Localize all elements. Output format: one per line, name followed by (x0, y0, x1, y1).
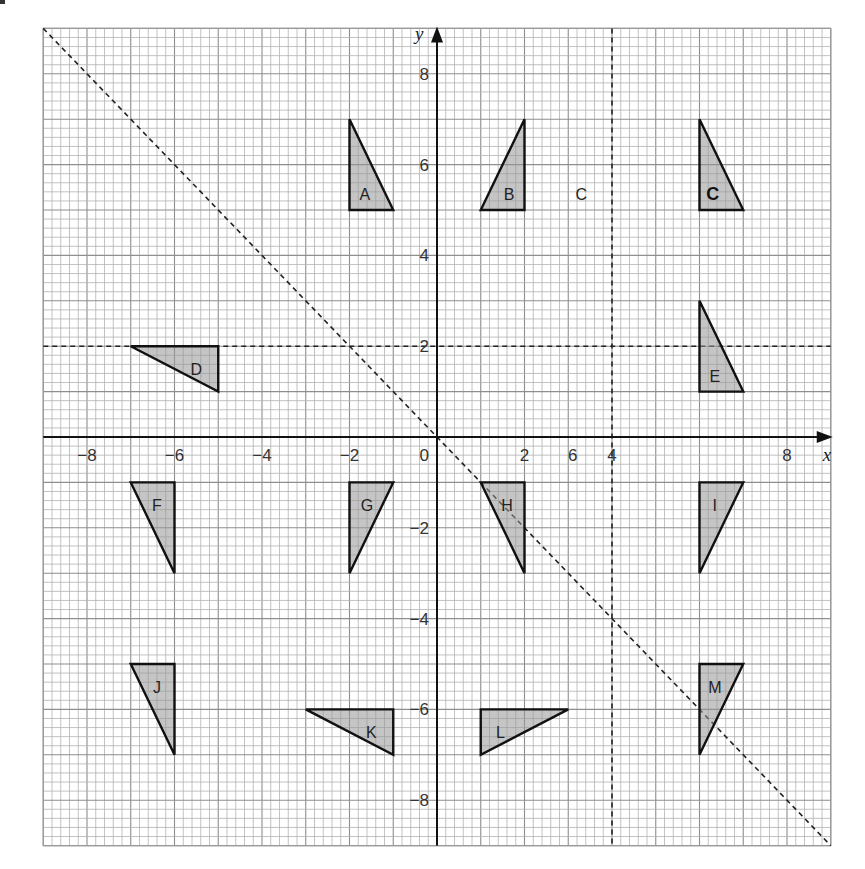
triangle-label-m: M (708, 679, 721, 696)
x-tick-label: −4 (252, 446, 271, 465)
triangle-label-d: D (191, 361, 203, 378)
triangle-label-e: E (709, 368, 720, 385)
y-tick-label: 8 (420, 65, 429, 84)
x-tick-label: −6 (165, 446, 184, 465)
triangle-label-i: I (713, 497, 717, 514)
coordinate-grid-figure: x y −8−6−4−2026488642−2−4−6−8 ABCDEFGHIJ… (0, 0, 865, 869)
triangle-label-j: J (153, 679, 161, 696)
triangle-label-l: L (496, 724, 505, 741)
x-tick-label: 2 (520, 446, 529, 465)
triangle-label-g: G (361, 497, 373, 514)
y-tick-label: 6 (420, 156, 429, 175)
x-tick-label: 4 (607, 446, 616, 465)
y-tick-label: 2 (420, 337, 429, 356)
x-tick-label: −8 (77, 446, 96, 465)
triangle-label-b: B (504, 186, 515, 203)
x-axis-name: x (822, 444, 832, 465)
y-tick-label: −4 (410, 610, 429, 629)
x-tick-label: 6 (568, 446, 577, 465)
x-tick-label: 0 (420, 446, 429, 465)
triangle-label-f: F (152, 497, 162, 514)
y-axis-name: y (413, 23, 424, 44)
free-label-c: C (576, 186, 588, 203)
triangle-label-g-top: C (706, 184, 719, 204)
triangle-label-h: H (501, 497, 513, 514)
triangle-label-a: A (359, 186, 370, 203)
y-tick-label: −6 (410, 700, 429, 719)
y-tick-label: −2 (410, 519, 429, 538)
y-tick-label: −8 (410, 791, 429, 810)
triangle-label-k: K (366, 724, 377, 741)
x-tick-label: −2 (340, 446, 359, 465)
y-tick-label: 4 (420, 246, 429, 265)
x-tick-label: 8 (782, 446, 791, 465)
